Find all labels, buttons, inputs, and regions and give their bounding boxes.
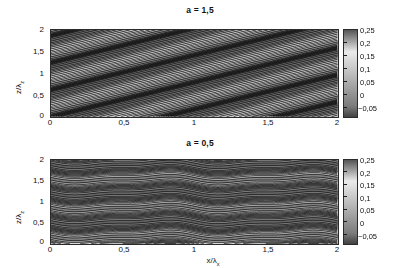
panel-bottom-title: a = 0,5	[0, 138, 400, 148]
panel-bottom: a = 0,5 z/λz 2 1,5 1 0,5 0 0 0,5 1 1,5 2…	[0, 134, 400, 268]
panel-bottom-cbar-label-5: 0	[360, 219, 364, 228]
figure-root: a = 1,5 z/λz 2 1,5 1 0,5 0 0 0,5 1 1,5 2…	[0, 0, 400, 268]
panel-bottom-xlabel: x/λx	[0, 256, 400, 267]
panel-bottom-ylabel: z/λz	[14, 211, 25, 224]
panel-bottom-xtick-3: 1,5	[255, 245, 281, 254]
panel-top-heatmap	[51, 30, 338, 117]
panel-bottom-cbar-label-4: 0,05	[360, 206, 375, 215]
panel-bottom-xtick-0: 0	[40, 245, 60, 254]
panel-top-ytick-2: 1	[26, 69, 44, 78]
panel-top-cbar-label-1: 0,2	[360, 39, 370, 48]
panel-bottom-cbar-tick-4	[343, 221, 347, 222]
panel-bottom-cbar-tick-0	[343, 171, 347, 172]
panel-top-xtick-1: 0,5	[111, 118, 137, 127]
panel-top-cbar-tick-3	[343, 81, 347, 82]
panel-bottom-cbar-label-2: 0,15	[360, 181, 375, 190]
panel-bottom-cbar-label-1: 0,2	[360, 169, 370, 178]
panel-top-xtick-0: 0	[40, 118, 60, 127]
panel-top-xtick-2: 1	[184, 118, 204, 127]
panel-bottom-cbar-tick-1	[343, 184, 347, 185]
panel-bottom-ytick-3: 1,5	[26, 176, 44, 185]
panel-bottom-cbar-tick-3	[343, 209, 347, 210]
panel-top-plot-area	[50, 29, 339, 118]
panel-top-ytick-1: 0,5	[26, 91, 44, 100]
panel-top-cbar-tick-5	[343, 107, 347, 108]
panel-bottom-cbar-tick-5	[343, 234, 347, 235]
panel-top-ylabel: z/λz	[14, 81, 25, 94]
panel-bottom-cbar-label-3: 0,1	[360, 194, 370, 203]
panel-top-ytick-4: 2	[26, 25, 44, 34]
panel-top-cbar-label-6: −0,05	[358, 104, 377, 113]
panel-bottom-xtick-1: 0,5	[111, 245, 137, 254]
panel-top-colorbar-gradient	[344, 30, 357, 117]
panel-top-ylabel-sub: z	[19, 81, 25, 84]
panel-bottom-xtick-4: 2	[327, 245, 347, 254]
panel-top: a = 1,5 z/λz 2 1,5 1 0,5 0 0 0,5 1 1,5 2…	[0, 0, 400, 134]
panel-bottom-ytick-4: 2	[26, 155, 44, 164]
panel-bottom-ytick-1: 0,5	[26, 218, 44, 227]
panel-top-cbar-label-2: 0,15	[360, 52, 375, 61]
panel-bottom-plot-area	[50, 159, 339, 245]
panel-top-cbar-tick-1	[343, 55, 347, 56]
panel-top-title: a = 1,5	[0, 5, 400, 15]
panel-bottom-cbar-tick-2	[343, 196, 347, 197]
panel-bottom-heatmap	[51, 160, 338, 244]
panel-bottom-colorbar-gradient	[344, 160, 357, 244]
panel-top-ylabel-text: z/λ	[14, 84, 23, 94]
panel-top-cbar-label-3: 0,1	[360, 65, 370, 74]
panel-top-ytick-3: 1,5	[26, 47, 44, 56]
panel-bottom-ytick-2: 1	[26, 197, 44, 206]
panel-top-cbar-tick-2	[343, 68, 347, 69]
panel-bottom-xlabel-sub: x	[217, 261, 220, 267]
panel-bottom-xtick-2: 1	[184, 245, 204, 254]
panel-bottom-cbar-label-6: −0,05	[358, 232, 377, 241]
panel-top-cbar-label-0: 0,25	[360, 26, 375, 35]
panel-bottom-ylabel-sub: z	[19, 211, 25, 214]
panel-top-cbar-label-4: 0,05	[360, 78, 375, 87]
panel-top-cbar-label-5: 0	[360, 91, 364, 100]
panel-bottom-ylabel-text: z/λ	[14, 214, 23, 224]
panel-top-cbar-tick-4	[343, 94, 347, 95]
panel-bottom-cbar-label-0: 0,25	[360, 156, 375, 165]
panel-top-xtick-3: 1,5	[255, 118, 281, 127]
panel-top-xtick-4: 2	[327, 118, 347, 127]
panel-bottom-xlabel-text: x/λ	[206, 256, 216, 265]
panel-top-cbar-tick-0	[343, 42, 347, 43]
